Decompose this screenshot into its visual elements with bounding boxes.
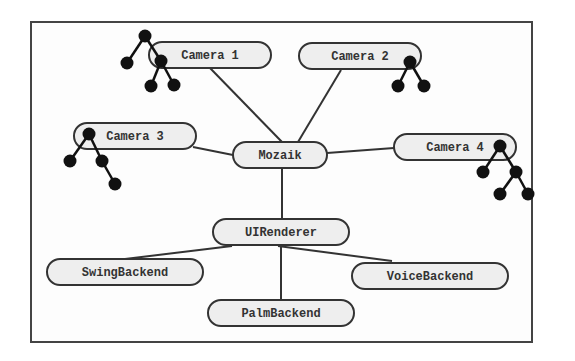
node-swingbackend[interactable]: SwingBackend — [47, 259, 203, 285]
tree-node-dot — [109, 178, 122, 191]
tree-node-dot — [121, 57, 134, 70]
node-voicebackend[interactable]: VoiceBackend — [352, 263, 508, 289]
tree-node-dot — [477, 166, 490, 179]
edge-camera1-mozaik — [210, 68, 282, 142]
tree-node-dot — [64, 155, 77, 168]
component-diagram: Camera 1Camera 2Camera 3Camera 4MozaikUI… — [0, 0, 575, 361]
node-label: Camera 1 — [181, 49, 239, 63]
node-label: PalmBackend — [241, 307, 320, 321]
node-uirenderer[interactable]: UIRenderer — [213, 219, 349, 245]
edge-camera2-mozaik — [298, 70, 341, 142]
tree-node-dot — [83, 128, 96, 141]
node-label: SwingBackend — [82, 266, 168, 280]
node-label: Mozaik — [258, 149, 301, 163]
edge-uirenderer-voicebackend — [278, 246, 392, 261]
edge-uirenderer-swingbackend — [125, 246, 232, 259]
tree-node-dot — [510, 166, 523, 179]
node-palmbackend[interactable]: PalmBackend — [208, 300, 354, 326]
tree-node-dot — [145, 80, 158, 93]
tree-node-dot — [522, 188, 535, 201]
tree-node-dot — [392, 80, 405, 93]
edge-camera4-mozaik — [327, 148, 394, 153]
tree-node-dot — [168, 79, 181, 92]
tree-node-dot — [494, 140, 507, 153]
node-label: UIRenderer — [245, 226, 317, 240]
node-mozaik[interactable]: Mozaik — [233, 142, 327, 168]
node-camera1[interactable]: Camera 1 — [149, 42, 271, 68]
tree-node-dot — [418, 80, 431, 93]
tree-node-dot — [404, 56, 417, 69]
node-label: Camera 4 — [426, 141, 484, 155]
edge-camera3-mozaik — [193, 147, 233, 155]
node-camera2[interactable]: Camera 2 — [299, 43, 421, 69]
tree-node-dot — [494, 188, 507, 201]
tree-node-dot — [139, 30, 152, 43]
tree-node-dot — [96, 155, 109, 168]
node-label: Camera 3 — [106, 130, 164, 144]
node-label: VoiceBackend — [387, 270, 473, 284]
tree-node-dot — [155, 55, 168, 68]
node-label: Camera 2 — [331, 50, 389, 64]
